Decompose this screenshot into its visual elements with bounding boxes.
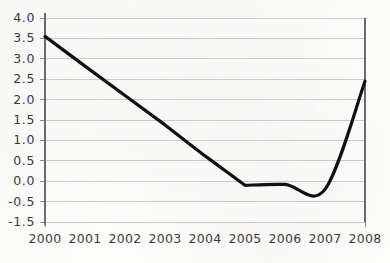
y-tick-label: 0.5: [0, 155, 35, 168]
plot-area: [0, 0, 390, 263]
y-axis-ticks: [40, 18, 45, 222]
y-tick-label: 4.0: [0, 12, 35, 25]
y-tick-label: 3.0: [0, 53, 35, 66]
y-tick-label: 0.0: [0, 175, 35, 188]
x-tick-label: 2006: [263, 233, 307, 246]
x-tick-label: 2002: [103, 233, 147, 246]
data-series-line: [45, 36, 365, 196]
x-tick-label: 2007: [303, 233, 347, 246]
x-tick-label: 2003: [143, 233, 187, 246]
x-tick-label: 2005: [223, 233, 267, 246]
x-axis-ticks: [45, 222, 365, 227]
gridlines: [45, 18, 365, 222]
line-chart: 4.03.53.02.52.01.51.00.50.0-0.5-1.5 2000…: [0, 0, 390, 263]
y-tick-label: 1.0: [0, 134, 35, 147]
y-tick-label: 1.5: [0, 114, 35, 127]
y-tick-label: 2.0: [0, 94, 35, 107]
x-tick-label: 2001: [63, 233, 107, 246]
x-tick-label: 2000: [23, 233, 67, 246]
x-tick-label: 2004: [183, 233, 227, 246]
x-tick-label: 2008: [343, 233, 387, 246]
y-tick-label: -0.5: [0, 196, 35, 209]
y-tick-label: 2.5: [0, 73, 35, 86]
y-tick-label: -1.5: [0, 216, 35, 229]
y-tick-label: 3.5: [0, 32, 35, 45]
